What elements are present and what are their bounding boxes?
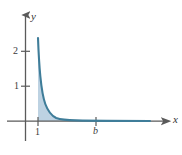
graph-plot	[0, 0, 182, 155]
y-tick-label-1: 1	[14, 81, 19, 91]
x-axis-label: x	[173, 114, 178, 125]
y-tick-label-2: 2	[13, 46, 18, 56]
x-tick-label-b: b	[93, 126, 98, 136]
shaded-area-region	[38, 38, 150, 121]
curve-one-over-x-squared	[38, 38, 150, 121]
x-tick-label-1: 1	[35, 127, 40, 137]
y-axis-label: y	[31, 11, 36, 22]
figure-container: y x 2 1 1 b	[0, 0, 182, 155]
